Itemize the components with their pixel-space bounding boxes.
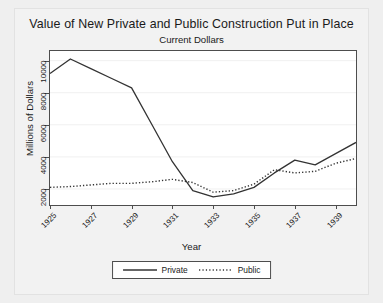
plot-area-wrapper: 200040006000800010000 192519271929193119… [49,50,357,206]
legend-swatch-dotted [199,266,233,274]
y-axis-label: Millions of Dollars [24,74,35,164]
legend-label-private: Private [162,265,188,275]
chart-legend: Private Public [112,261,272,279]
x-tick-label: 1935 [236,211,262,237]
x-tick-mark [172,205,173,209]
x-tick-label: 1939 [318,211,344,237]
series-line-private [50,59,356,197]
legend-label-public: Public [238,265,261,275]
legend-item-public: Public [199,265,261,275]
x-tick-mark [91,205,92,209]
x-tick-label: 1929 [114,211,140,237]
x-tick-label: 1933 [195,211,221,237]
x-tick-mark [132,205,133,209]
x-tick-mark [336,205,337,209]
x-tick-mark [213,205,214,209]
x-tick-mark [295,205,296,209]
chart-title: Value of New Private and Public Construc… [15,17,368,31]
x-tick-mark [50,205,51,209]
x-tick-mark [254,205,255,209]
x-tick-label: 1927 [73,211,99,237]
x-tick-label: 1931 [155,211,181,237]
x-axis-label: Year [15,241,368,252]
chart-figure: Value of New Private and Public Construc… [14,8,369,295]
plot-area [49,50,357,206]
chart-lines [50,51,356,205]
legend-swatch-solid [123,266,157,274]
legend-item-private: Private [123,265,188,275]
x-tick-label: 1937 [277,211,303,237]
y-tick-label: 10000 [39,60,48,116]
chart-subtitle: Current Dollars [15,34,368,45]
